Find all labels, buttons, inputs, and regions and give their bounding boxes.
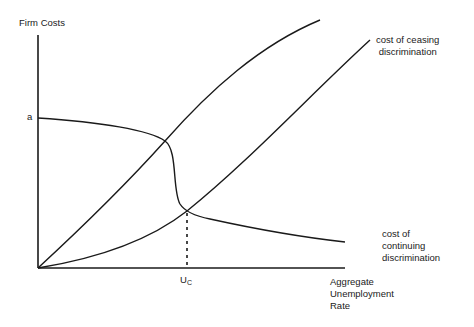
cost-of-ceasing-curve	[38, 40, 370, 268]
y-intercept-label: a	[27, 111, 32, 123]
uc-label-sub: C	[187, 279, 192, 286]
uc-label: UC	[180, 274, 192, 289]
x-axis-label-line-3: Rate	[330, 300, 394, 312]
cost-of-ceasing-label-line-1: cost of ceasing	[376, 34, 439, 46]
cost-of-continuing-label: cost of continuing discrimination	[382, 228, 440, 264]
cost-of-continuing-label-line-3: discrimination	[382, 252, 440, 264]
x-axis-label-line-1: Aggregate	[330, 276, 394, 288]
cost-of-continuing-label-line-1: cost of	[382, 228, 440, 240]
uc-label-main: U	[180, 274, 187, 285]
cost-of-ceasing-label-line-2: discrimination	[376, 46, 439, 58]
upper-rising-curve	[38, 20, 320, 268]
y-axis-label: Firm Costs	[19, 17, 65, 29]
x-axis-label-line-2: Unemployment	[330, 288, 394, 300]
cost-of-ceasing-label: cost of ceasing discrimination	[376, 34, 439, 58]
cost-of-continuing-label-line-2: continuing	[382, 240, 440, 252]
cost-of-continuing-curve	[38, 118, 345, 242]
x-axis-label: Aggregate Unemployment Rate	[330, 276, 394, 312]
